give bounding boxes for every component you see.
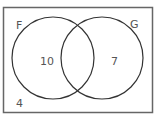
set-f-label: F <box>16 19 22 32</box>
f-only-count: 10 <box>40 55 54 68</box>
venn-diagram: F G 10 7 4 <box>0 0 156 115</box>
set-g-label: G <box>130 18 139 31</box>
outside-count: 4 <box>16 97 23 110</box>
g-only-count: 7 <box>111 55 118 68</box>
